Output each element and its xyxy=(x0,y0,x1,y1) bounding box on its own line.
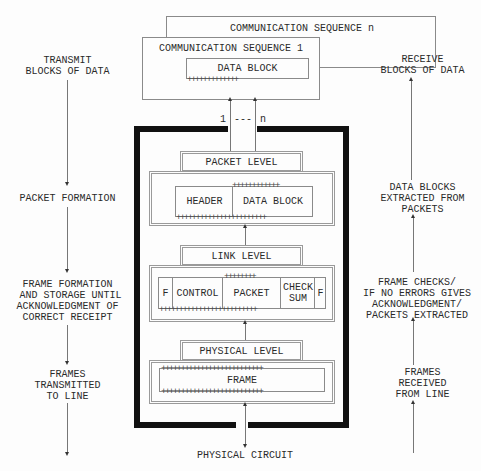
left-arrow-3 xyxy=(67,325,68,362)
communication-sequence-n-label: COMMUNICATION SEQUENCE n xyxy=(177,23,427,34)
physical-plus-top: ++++++++++++++++++++++++++ xyxy=(161,365,325,373)
packet-label: PACKET xyxy=(233,288,269,299)
flag-right-field: F xyxy=(315,278,326,308)
packet-field: PACKET xyxy=(223,278,280,308)
system-frame-top-left xyxy=(134,126,228,132)
left-step-packet-formation: PACKET FORMATION xyxy=(5,193,130,204)
right-step-receive-blocks: RECEIVE BLOCKS OF DATA xyxy=(365,54,480,76)
flag-left-label: F xyxy=(162,288,168,299)
system-frame-bottom-left xyxy=(134,422,236,428)
link-plus-bottom: +++++++++++++++++++++++++ xyxy=(159,306,329,314)
right-arrow-4 xyxy=(413,403,414,453)
system-frame-right xyxy=(343,126,349,428)
physical-level-box: FRAME ++++++++++++++++++++++++++ +++++++… xyxy=(149,360,335,404)
right-arrow-2 xyxy=(413,217,414,272)
top-data-block-plus-row: +++++++++++++ xyxy=(187,76,311,84)
link-level-box: F CONTROL PACKET CHECK SUM F ++++++++ ++… xyxy=(149,265,335,322)
packet-structure: HEADER DATA BLOCK xyxy=(175,186,313,217)
packet-plus-top: ++++++++++++ xyxy=(232,182,314,190)
system-frame-bottom-right xyxy=(248,422,349,428)
communication-sequence-1-box: COMMUNICATION SEQUENCE 1 DATA BLOCK ++++… xyxy=(142,37,320,100)
physical-level-title: PHYSICAL LEVEL xyxy=(183,346,300,357)
flag-left-field: F xyxy=(159,278,172,308)
communication-sequence-1-label: COMMUNICATION SEQUENCE 1 xyxy=(143,43,319,54)
right-arrow-1 xyxy=(411,80,412,180)
left-arrow-1 xyxy=(67,80,68,183)
left-arrow-4 xyxy=(67,403,68,453)
top-data-block-label: DATA BLOCK xyxy=(187,63,308,74)
flag-right-label: F xyxy=(317,288,323,299)
physical-level-title-box: PHYSICAL LEVEL xyxy=(180,340,303,362)
system-frame-left xyxy=(134,126,140,428)
link-level-title-box: LINK LEVEL xyxy=(180,245,303,267)
checksum-label: CHECK SUM xyxy=(283,282,313,304)
right-step-frames-received: FRAMES RECEIVED FROM LINE xyxy=(365,367,480,400)
link-level-title: LINK LEVEL xyxy=(183,251,300,262)
left-step-transmit-blocks: TRANSMIT BLOCKS OF DATA xyxy=(10,55,125,77)
packet-header-field: HEADER xyxy=(176,187,233,216)
frame-structure: F CONTROL PACKET CHECK SUM F xyxy=(158,277,326,309)
physical-circuit-label: PHYSICAL CIRCUIT xyxy=(185,450,305,461)
link-arrow-n xyxy=(255,100,256,152)
packet-data-block-label: DATA BLOCK xyxy=(243,196,303,207)
left-step-frame-formation: FRAME FORMATION AND STORAGE UNTIL ACKNOW… xyxy=(5,279,130,323)
left-step-frames-transmitted: FRAMES TRANSMITTED TO LINE xyxy=(10,369,125,402)
packet-level-title-box: PACKET LEVEL xyxy=(180,151,303,173)
physical-circuit-arrow xyxy=(245,405,246,445)
right-step-frame-checks: FRAME CHECKS/ IF NO ERRORS GIVES ACKNOWL… xyxy=(353,277,481,321)
packet-level-box: HEADER DATA BLOCK ++++++++++++ +++++++++… xyxy=(149,171,335,226)
control-label: CONTROL xyxy=(176,288,218,299)
link-1-label: 1 xyxy=(218,114,228,125)
left-arrow-2 xyxy=(67,207,68,270)
right-arrow-3 xyxy=(413,320,414,365)
system-frame-top-right xyxy=(257,126,349,132)
link-n-label: n xyxy=(258,114,268,125)
physical-plus-bottom: ++++++++++++++++++++++++++ xyxy=(161,388,325,396)
link-plus-top: ++++++++ xyxy=(224,273,274,281)
checksum-field: CHECK SUM xyxy=(281,278,315,308)
right-step-data-blocks-extracted: DATA BLOCKS EXTRACTED FROM PACKETS xyxy=(365,182,480,215)
packet-header-label: HEADER xyxy=(186,196,222,207)
link-dash-label: --- xyxy=(232,114,254,125)
packet-data-block-field: DATA BLOCK xyxy=(233,187,313,216)
control-field: CONTROL xyxy=(173,278,222,308)
packet-level-title: PACKET LEVEL xyxy=(183,157,300,168)
packet-plus-bottom: +++++++++++++++++++++++ xyxy=(176,214,316,222)
link-arrow-1 xyxy=(230,100,231,152)
physical-frame-label: FRAME xyxy=(227,375,257,386)
